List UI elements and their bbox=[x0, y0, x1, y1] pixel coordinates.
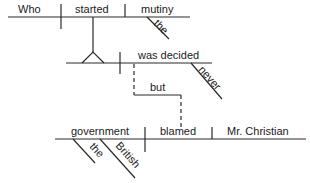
word-mutiny: mutiny bbox=[141, 3, 174, 15]
word-never: never bbox=[196, 63, 223, 92]
word-blamed: blamed bbox=[160, 125, 196, 137]
word-was-decided: was decided bbox=[137, 49, 199, 61]
word-but: but bbox=[150, 81, 165, 93]
word-government: government bbox=[71, 125, 129, 137]
word-started: started bbox=[75, 3, 109, 15]
word-mr-christian: Mr. Christian bbox=[227, 125, 289, 137]
pedestal-triangle bbox=[82, 52, 104, 63]
word-british: British bbox=[114, 139, 143, 170]
word-who: Who bbox=[18, 3, 41, 15]
word-the-1: the bbox=[152, 17, 171, 36]
sentence-diagram: Who started mutiny the was decided never… bbox=[0, 0, 310, 183]
